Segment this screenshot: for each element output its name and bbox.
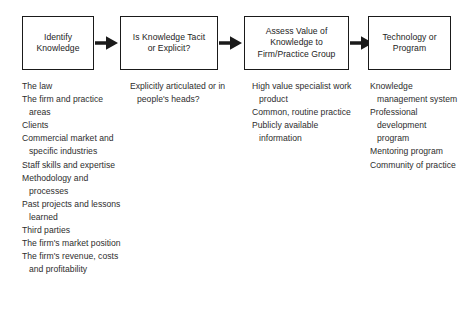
list-item: The firm's revenue, costs and profitabil… bbox=[22, 250, 126, 276]
list-item: Publicly available information bbox=[252, 119, 362, 145]
list-item: Third parties bbox=[22, 224, 126, 237]
list-item: Explicitly articulated or in people's he… bbox=[130, 80, 235, 106]
list-item: Knowledge management system bbox=[370, 80, 460, 106]
detail-list: The law The firm and practice areas Clie… bbox=[22, 80, 126, 276]
list-item: Methodology and processes bbox=[22, 172, 126, 198]
detail-list: High value specialist work product Commo… bbox=[252, 80, 362, 145]
list-item: Clients bbox=[22, 119, 126, 132]
detail-column-identify-knowledge: The law The firm and practice areas Clie… bbox=[22, 80, 126, 276]
list-item: The firm's market position bbox=[22, 237, 126, 250]
list-item: The firm and practice areas bbox=[22, 93, 126, 119]
flow-box-label: Assess Value of Knowledge to Firm/Practi… bbox=[254, 26, 340, 60]
detail-column-technology-or-program: Knowledge management system Professional… bbox=[370, 80, 460, 172]
flow-box-technology-or-program[interactable]: Technology or Program bbox=[368, 16, 451, 70]
list-item: Past projects and lessons learned bbox=[22, 198, 126, 224]
list-item: Mentoring program bbox=[370, 145, 460, 158]
flow-box-assess-value[interactable]: Assess Value of Knowledge to Firm/Practi… bbox=[244, 16, 349, 70]
list-item: Common, routine practice bbox=[252, 106, 362, 119]
list-item: The law bbox=[22, 80, 126, 93]
detail-column-assess-value: High value specialist work product Commo… bbox=[252, 80, 362, 145]
list-item: Staff skills and expertise bbox=[22, 159, 126, 172]
flow-box-label: Is Knowledge Tacit or Explicit? bbox=[129, 32, 209, 54]
list-item: Commercial market and specific industrie… bbox=[22, 132, 126, 158]
flow-box-label: Identify Knowledge bbox=[33, 32, 84, 54]
detail-list: Knowledge management system Professional… bbox=[370, 80, 460, 172]
detail-list: Explicitly articulated or in people's he… bbox=[130, 80, 235, 106]
flow-box-identify-knowledge[interactable]: Identify Knowledge bbox=[22, 16, 94, 70]
flow-row: Identify Knowledge Is Knowledge Tacit or… bbox=[0, 16, 465, 70]
list-item: High value specialist work product bbox=[252, 80, 362, 106]
arrow-right-icon bbox=[219, 34, 243, 52]
process-flow-diagram: Identify Knowledge Is Knowledge Tacit or… bbox=[0, 0, 465, 320]
flow-box-tacit-or-explicit[interactable]: Is Knowledge Tacit or Explicit? bbox=[120, 16, 218, 70]
flow-box-label: Technology or Program bbox=[378, 32, 440, 54]
list-item: Professional development program bbox=[370, 106, 460, 145]
detail-column-tacit-or-explicit: Explicitly articulated or in people's he… bbox=[130, 80, 235, 106]
arrow-right-icon bbox=[95, 34, 119, 52]
list-item: Community of practice bbox=[370, 159, 460, 172]
